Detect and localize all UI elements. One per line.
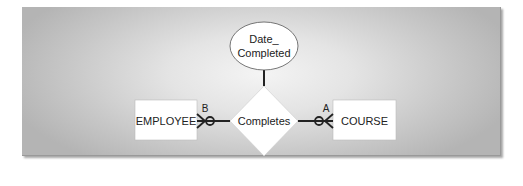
relationship-label: Completes: [238, 115, 291, 127]
relationship-completes[interactable]: Completes: [230, 86, 298, 156]
attribute-label-line1: Date_: [249, 33, 279, 45]
entity-employee[interactable]: EMPLOYEE: [135, 100, 197, 140]
attribute-label-line2: Completed: [237, 47, 290, 59]
connector-completes-course: A: [298, 103, 333, 128]
crows-foot-icon: [197, 114, 205, 121]
entity-label-course: COURSE: [341, 115, 388, 127]
attribute-date-completed[interactable]: Date_ Completed: [230, 22, 298, 70]
er-diagram: Date_ Completed Completes EMPLOYEE COURS…: [0, 0, 523, 186]
entity-label-employee: EMPLOYEE: [136, 115, 197, 127]
connector-employee-completes: B: [197, 103, 230, 128]
crows-foot-icon: [325, 114, 333, 121]
cardinality-label-a: A: [323, 103, 330, 114]
cardinality-label-b: B: [202, 103, 209, 114]
entity-course[interactable]: COURSE: [333, 100, 396, 140]
